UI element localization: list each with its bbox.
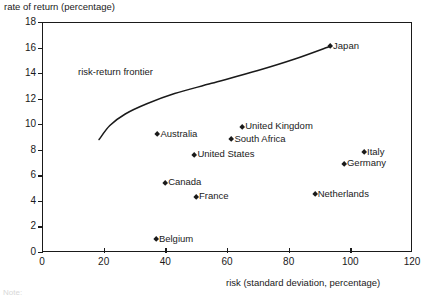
data-point-label: France <box>199 190 229 201</box>
data-point-label: Germany <box>347 157 386 168</box>
data-point-label: Australia <box>160 128 197 139</box>
data-point-label: Italy <box>367 146 384 157</box>
data-point-label: Japan <box>333 40 359 51</box>
data-point-label: South Africa <box>234 133 285 144</box>
chart-figure: rate of return (percentage) 024681012141… <box>0 0 439 300</box>
data-point-label: Belgium <box>159 233 193 244</box>
data-point-label: United States <box>197 148 254 159</box>
x-axis-caption: risk (standard deviation, percentage) <box>226 277 380 288</box>
data-point-label: Canada <box>168 176 201 187</box>
frontier-annotation-label: risk-return frontier <box>78 66 153 77</box>
data-point-label: Netherlands <box>318 188 369 199</box>
data-point-label: United Kingdom <box>245 120 313 131</box>
footnote-text: Note: <box>3 288 22 297</box>
